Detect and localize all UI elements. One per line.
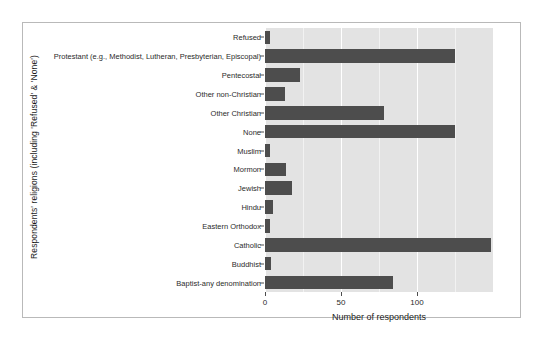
gridline-minor-vertical xyxy=(379,28,380,292)
bar xyxy=(265,181,292,195)
y-tick-mark xyxy=(260,37,264,38)
y-tick-label: Jewish xyxy=(238,184,261,193)
y-tick-mark xyxy=(260,188,264,189)
bar xyxy=(265,219,270,233)
y-tick-mark xyxy=(260,131,264,132)
bar xyxy=(265,163,286,177)
y-tick-mark xyxy=(260,75,264,76)
y-tick-mark xyxy=(260,150,264,151)
chart-figure: Respondents' religions (including 'Refus… xyxy=(0,0,545,344)
gridline-minor-vertical xyxy=(303,28,304,292)
y-tick-mark xyxy=(260,112,264,113)
y-tick-mark xyxy=(260,94,264,95)
y-tick-label: Protestant (e.g., Methodist, Lutheran, P… xyxy=(54,52,261,61)
plot-panel xyxy=(265,28,493,292)
y-tick-label: Baptist-any denomination xyxy=(176,278,261,287)
bar xyxy=(265,31,270,45)
y-tick-mark xyxy=(260,282,264,283)
x-tick-mark xyxy=(417,292,418,296)
bar xyxy=(265,200,273,214)
y-tick-label: Buddhist xyxy=(232,259,261,268)
y-tick-label: Eastern Orthodox xyxy=(202,222,261,231)
x-tick-label: 0 xyxy=(263,298,267,307)
y-tick-label: Muslim xyxy=(237,146,261,155)
y-axis-title: Respondents' religions (including 'Refus… xyxy=(29,37,39,277)
y-tick-mark xyxy=(260,263,264,264)
y-tick-label: Other Christian xyxy=(211,108,261,117)
y-tick-label: None xyxy=(243,127,261,136)
x-tick-mark xyxy=(265,292,266,296)
bar xyxy=(265,144,270,158)
x-tick-mark xyxy=(341,292,342,296)
bar xyxy=(265,238,491,252)
y-tick-mark xyxy=(260,226,264,227)
bar xyxy=(265,276,393,290)
x-axis-title: Number of respondents xyxy=(265,312,493,322)
gridline-major-vertical xyxy=(417,28,418,292)
y-tick-label: Mormon xyxy=(233,165,261,174)
y-tick-mark xyxy=(260,244,264,245)
x-tick-label: 50 xyxy=(337,298,346,307)
bar xyxy=(265,125,455,139)
y-tick-label: Other non-Christian xyxy=(196,90,261,99)
y-tick-mark xyxy=(260,207,264,208)
y-tick-mark xyxy=(260,169,264,170)
y-tick-label: Catholic xyxy=(234,240,261,249)
bar xyxy=(265,106,384,120)
gridline-minor-vertical xyxy=(455,28,456,292)
y-tick-label: Pentecostal xyxy=(222,71,261,80)
bar xyxy=(265,49,455,63)
y-tick-label: Hindu xyxy=(241,203,261,212)
y-tick-mark xyxy=(260,56,264,57)
bar xyxy=(265,68,300,82)
y-tick-label: Refused xyxy=(233,33,261,42)
bar xyxy=(265,87,285,101)
bar xyxy=(265,257,271,271)
gridline-major-vertical xyxy=(341,28,342,292)
x-tick-label: 100 xyxy=(410,298,423,307)
